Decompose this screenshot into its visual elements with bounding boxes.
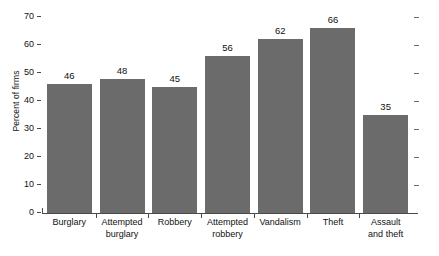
bar-chart: Percent of firms 010203040506070 4648455…	[0, 0, 439, 256]
y-axis-tick-mark	[37, 44, 41, 45]
bar-value-label: 66	[310, 15, 355, 25]
x-axis-label-line1: Vandalism	[260, 217, 301, 227]
bar-item[interactable]	[310, 28, 355, 213]
x-axis-label: Attemptedburglary	[92, 217, 153, 240]
y-axis-tick-mark	[37, 212, 41, 213]
x-axis-label-line1: Burglary	[53, 217, 87, 227]
y-axis-tick-mark	[37, 72, 41, 73]
x-axis-label-line2: robbery	[197, 229, 258, 241]
bar-item[interactable]	[152, 87, 197, 213]
y-axis-tick-label: 60	[24, 40, 34, 49]
bar[interactable]	[258, 39, 303, 213]
x-axis-label: Robbery	[144, 217, 205, 229]
x-axis-label-line1: Theft	[323, 217, 344, 227]
y-axis-tick-mark	[37, 184, 41, 185]
bar-item[interactable]	[205, 56, 250, 213]
bar-value-label: 62	[258, 26, 303, 36]
y-axis-tick-label: 10	[24, 180, 34, 189]
y-axis-tick: 50	[0, 68, 41, 77]
bar-item[interactable]	[100, 79, 145, 213]
right-axis-tick-mark	[414, 73, 419, 74]
bar-item[interactable]	[258, 39, 303, 213]
right-axis-tick-mark	[414, 17, 419, 18]
bar-value-label: 45	[152, 74, 197, 84]
right-axis-tick-mark	[414, 101, 419, 102]
bar-value-label: 46	[47, 71, 92, 81]
x-axis-label: Theft	[303, 217, 364, 229]
bar-value-label: 48	[100, 66, 145, 76]
bar-item[interactable]	[47, 84, 92, 213]
bar[interactable]	[363, 115, 408, 213]
y-axis-tick-mark	[37, 16, 41, 17]
right-axis-tick-mark	[414, 185, 419, 186]
right-axis-tick-mark	[414, 129, 419, 130]
y-axis-tick: 30	[0, 124, 41, 133]
bar-value-label: 56	[205, 43, 250, 53]
y-axis-tick-mark	[37, 100, 41, 101]
y-axis-tick-label: 20	[24, 152, 34, 161]
y-axis-tick: 20	[0, 152, 41, 161]
x-axis-line	[43, 213, 418, 214]
bar[interactable]	[310, 28, 355, 213]
y-axis-tick-label: 40	[24, 96, 34, 105]
x-axis-label-line1: Attempted	[207, 217, 248, 227]
y-axis-tick: 10	[0, 180, 41, 189]
bar[interactable]	[47, 84, 92, 213]
y-axis-tick-label: 30	[24, 124, 34, 133]
bar[interactable]	[205, 56, 250, 213]
y-axis-tick: 40	[0, 96, 41, 105]
bar-value-label: 35	[363, 102, 408, 112]
y-axis-tick: 60	[0, 40, 41, 49]
y-axis-tick-label: 50	[24, 68, 34, 77]
y-axis-tick: 0	[0, 208, 41, 217]
x-axis-label: Vandalism	[250, 217, 311, 229]
y-axis-tick-mark	[37, 128, 41, 129]
y-axis-tick-mark	[37, 156, 41, 157]
x-axis-label: Assaultand theft	[355, 217, 416, 240]
right-axis-tick-mark	[414, 157, 419, 158]
x-axis-label-line1: Assault	[371, 217, 401, 227]
bar-item[interactable]	[363, 115, 408, 213]
x-axis-label: Attemptedrobbery	[197, 217, 258, 240]
bar[interactable]	[152, 87, 197, 213]
bar[interactable]	[100, 79, 145, 213]
x-axis-label-line1: Robbery	[158, 217, 192, 227]
y-axis-tick-label: 0	[29, 208, 34, 217]
x-axis-label-line2: and theft	[355, 229, 416, 241]
x-axis-label-line1: Attempted	[102, 217, 143, 227]
x-axis-label-line2: burglary	[92, 229, 153, 241]
right-axis-tick-mark	[414, 45, 419, 46]
y-axis-tick: 70	[0, 12, 41, 21]
y-axis-line	[42, 208, 43, 214]
x-axis-label: Burglary	[39, 217, 100, 229]
y-axis-tick-label: 70	[24, 12, 34, 21]
